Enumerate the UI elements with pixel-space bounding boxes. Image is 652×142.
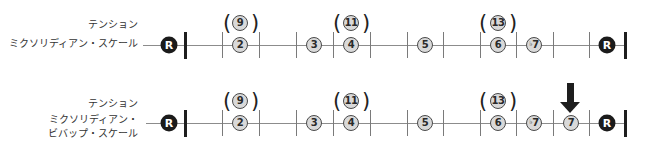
tension-13: 13 xyxy=(490,15,506,31)
semitone-tick xyxy=(516,32,517,58)
flat-symbol: ♭ xyxy=(529,119,532,126)
start-bar xyxy=(184,32,187,59)
open-paren: ( xyxy=(223,91,231,112)
note-6: 6 xyxy=(490,37,506,53)
root-note-start: R xyxy=(161,115,178,132)
note-flat-7: ♭7 xyxy=(526,115,542,131)
root-note-end: R xyxy=(599,37,616,54)
semitone-tick xyxy=(589,110,590,136)
note-5: 5 xyxy=(417,37,433,53)
tension-11: 11 xyxy=(343,93,359,109)
semitone-tick xyxy=(259,110,260,136)
note-2: 2 xyxy=(232,115,248,131)
semitone-tick xyxy=(553,110,554,136)
semitone-tick xyxy=(370,32,371,58)
semitone-tick xyxy=(553,32,554,58)
semitone-tick xyxy=(333,110,334,136)
root-note-start: R xyxy=(161,37,178,54)
scale-diagram: テンション ミクソリディアン・スケール R ( 9 ) ( 11 ) ( 13 … xyxy=(0,0,652,142)
note-degree: 7 xyxy=(532,118,538,128)
tension-13: 13 xyxy=(490,93,506,109)
tension-9: 9 xyxy=(232,15,248,31)
semitone-tick xyxy=(222,32,223,58)
semitone-tick xyxy=(516,110,517,136)
semitone-tick xyxy=(480,32,481,58)
tension-label: テンション xyxy=(0,98,138,110)
mixolydian-scale-row: テンション ミクソリディアン・スケール R ( 9 ) ( 11 ) ( 13 … xyxy=(0,0,652,78)
scale-label-line-1: ミクソリディアン・ xyxy=(0,114,138,126)
semitone-tick xyxy=(407,110,408,136)
open-paren: ( xyxy=(333,91,341,112)
semitone-tick xyxy=(296,32,297,58)
close-paren: ) xyxy=(509,91,517,112)
note-flat-7: ♭7 xyxy=(526,37,542,53)
semitone-tick xyxy=(296,110,297,136)
open-paren: ( xyxy=(479,91,487,112)
down-arrow-icon xyxy=(567,83,574,103)
scale-label: ミクソリディアン・スケール xyxy=(0,38,138,50)
end-bar xyxy=(624,32,627,59)
open-paren: ( xyxy=(223,13,231,34)
tension-11: 11 xyxy=(343,15,359,31)
close-paren: ) xyxy=(362,13,370,34)
semitone-tick xyxy=(370,110,371,136)
mixolydian-bebop-scale-row: テンション ミクソリディアン・ ビバップ・スケール R ( 9 ) ( 11 )… xyxy=(0,78,652,142)
close-paren: ) xyxy=(509,13,517,34)
note-major-7-highlighted: 7 xyxy=(563,115,579,131)
note-6: 6 xyxy=(490,115,506,131)
note-2: 2 xyxy=(232,37,248,53)
flat-symbol: ♭ xyxy=(529,41,532,48)
tension-9: 9 xyxy=(232,93,248,109)
end-bar xyxy=(624,110,627,137)
note-3: 3 xyxy=(306,37,322,53)
open-paren: ( xyxy=(479,13,487,34)
close-paren: ) xyxy=(362,91,370,112)
start-bar xyxy=(184,110,187,137)
note-3: 3 xyxy=(306,115,322,131)
semitone-tick xyxy=(480,110,481,136)
open-paren: ( xyxy=(333,13,341,34)
close-paren: ) xyxy=(251,91,259,112)
scale-label-line-2: ビバップ・スケール xyxy=(0,128,138,140)
note-degree: 7 xyxy=(532,40,538,50)
semitone-tick xyxy=(333,32,334,58)
semitone-tick xyxy=(222,110,223,136)
note-4: 4 xyxy=(343,115,359,131)
down-arrow-head-icon xyxy=(560,102,580,113)
semitone-tick xyxy=(443,110,444,136)
note-5: 5 xyxy=(417,115,433,131)
tension-label: テンション xyxy=(0,19,138,31)
note-4: 4 xyxy=(343,37,359,53)
semitone-tick xyxy=(589,32,590,58)
semitone-tick xyxy=(407,32,408,58)
semitone-tick xyxy=(443,32,444,58)
close-paren: ) xyxy=(251,13,259,34)
root-note-end: R xyxy=(599,115,616,132)
semitone-tick xyxy=(259,32,260,58)
